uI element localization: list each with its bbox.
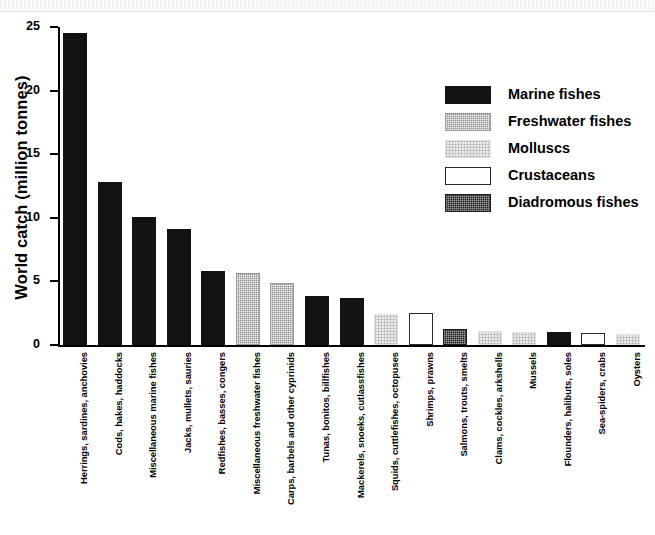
legend-swatch-marine bbox=[445, 86, 491, 104]
bar bbox=[98, 182, 122, 345]
y-axis-tick bbox=[50, 26, 58, 28]
y-axis-tick-label: 5 bbox=[0, 274, 40, 287]
y-axis-tick-label: 10 bbox=[0, 211, 40, 224]
bar bbox=[443, 329, 467, 345]
x-axis-label: Miscellaneous freshwater fishes bbox=[252, 352, 261, 494]
legend-swatch-crustaceans bbox=[445, 167, 491, 185]
y-axis-tick-label: 25 bbox=[0, 20, 40, 33]
x-axis-line bbox=[58, 345, 645, 347]
bar bbox=[547, 332, 571, 345]
y-axis-tick-label: 0 bbox=[0, 338, 40, 351]
x-axis-label: Herrings, sardines, anchovies bbox=[79, 352, 88, 484]
bar bbox=[63, 33, 87, 345]
x-axis-label: Jacks, mullets, sauries bbox=[183, 352, 192, 453]
y-axis-tick bbox=[50, 280, 58, 282]
bar bbox=[305, 296, 329, 345]
y-axis-tick bbox=[50, 344, 58, 346]
bar bbox=[478, 331, 502, 345]
y-axis-tick bbox=[50, 153, 58, 155]
bar bbox=[581, 333, 605, 345]
y-axis-tick bbox=[50, 90, 58, 92]
x-axis-label: Clams, cockles, arkshells bbox=[494, 352, 503, 464]
legend-label: Diadromous fishes bbox=[508, 193, 639, 212]
x-axis-label: Sea-spiders, crabs bbox=[597, 352, 606, 434]
bar bbox=[340, 298, 364, 345]
bar bbox=[374, 314, 398, 345]
y-axis-tick-label: 15 bbox=[0, 147, 40, 160]
legend-label: Freshwater fishes bbox=[508, 112, 631, 131]
legend-swatch-diadromous bbox=[445, 194, 491, 212]
y-axis-tick-label: 20 bbox=[0, 84, 40, 97]
x-axis-label: Squids, cuttlefishes, octopuses bbox=[390, 352, 399, 491]
bar bbox=[512, 332, 536, 345]
bar bbox=[236, 273, 260, 346]
x-axis-label: Cods, hakes, haddocks bbox=[114, 352, 123, 455]
plot-area bbox=[58, 27, 645, 345]
bar bbox=[270, 283, 294, 345]
bar bbox=[616, 334, 640, 345]
x-axis-label: Mussels bbox=[528, 352, 537, 389]
x-axis-label: Flounders, halibuts, soles bbox=[563, 352, 572, 466]
x-axis-label: Mackerels, snoeks, cutlassfishes bbox=[356, 352, 365, 498]
x-axis-label: Tunas, bonitos, billfishes bbox=[321, 352, 330, 463]
legend-swatch-freshwater bbox=[445, 113, 491, 131]
x-axis-label: Redfishes, basses, congers bbox=[217, 352, 226, 474]
bar bbox=[201, 271, 225, 345]
x-axis-label: Carps, barbels and other cyprinids bbox=[286, 352, 295, 505]
legend-label: Marine fishes bbox=[508, 85, 601, 104]
x-axis-label: Miscellaneous marine fishes bbox=[148, 352, 157, 478]
legend-swatch-molluscs bbox=[445, 140, 491, 158]
legend-label: Molluscs bbox=[508, 139, 570, 158]
x-axis-label: Oysters bbox=[632, 352, 641, 387]
bar bbox=[409, 313, 433, 345]
x-axis-label: Salmons, trouts, smelts bbox=[459, 352, 468, 457]
bar-chart: World catch (million tonnes) 0510152025 … bbox=[0, 0, 655, 535]
bar bbox=[132, 217, 156, 345]
bar bbox=[167, 229, 191, 345]
legend-label: Crustaceans bbox=[508, 166, 595, 185]
x-axis-label: Shrimps, prawns bbox=[425, 352, 434, 427]
y-axis-tick bbox=[50, 217, 58, 219]
